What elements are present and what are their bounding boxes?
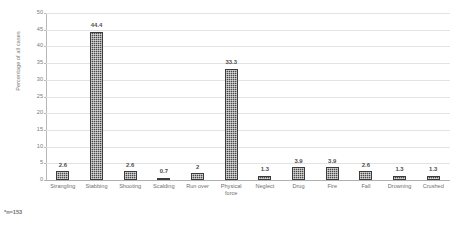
x-axis-label: Crushed: [416, 183, 450, 196]
bar: [292, 167, 305, 180]
bar-value-label: 1.3: [395, 167, 403, 173]
bar-slot: 1.3: [416, 13, 450, 180]
bar: [326, 167, 339, 180]
bar-value-label: 2.6: [126, 163, 134, 169]
bar-slot: 2.6: [349, 13, 383, 180]
bar-value-label: 3.9: [328, 159, 336, 165]
bar-value-label: 33.3: [225, 60, 236, 66]
plot-area: 05101520253035404550 2.644.42.60.7233.31…: [46, 13, 450, 180]
y-tick-label: 10: [37, 144, 43, 150]
x-axis-label: Physical force: [214, 183, 248, 196]
y-tick-label: 15: [37, 127, 43, 133]
bar-slot: 2.6: [113, 13, 147, 180]
y-tick-mark: [44, 180, 46, 181]
y-tick-label: 5: [40, 161, 43, 167]
x-axis-labels: StranglingStabbingShootingScaldingRun ov…: [46, 183, 450, 196]
bar-value-label: 2: [196, 165, 199, 171]
x-axis-label: Strangling: [46, 183, 80, 196]
y-tick-label: 30: [37, 77, 43, 83]
gridline: [46, 180, 450, 181]
bar: [56, 171, 69, 180]
bar-slot: 3.9: [282, 13, 316, 180]
bar-slot: 2: [181, 13, 215, 180]
bars-group: 2.644.42.60.7233.31.33.93.92.61.31.3: [46, 13, 450, 180]
bar: [258, 176, 271, 180]
bar-slot: 44.4: [80, 13, 114, 180]
bar: [124, 171, 137, 180]
bar-slot: 33.3: [214, 13, 248, 180]
bar: [393, 176, 406, 180]
x-axis-label: Stabbing: [80, 183, 114, 196]
bar: [90, 32, 103, 180]
y-tick-label: 25: [37, 94, 43, 100]
bar-slot: 3.9: [315, 13, 349, 180]
y-tick-label: 20: [37, 110, 43, 116]
bar-slot: 2.6: [46, 13, 80, 180]
x-axis-label: Shooting: [113, 183, 147, 196]
y-tick-label: 35: [37, 60, 43, 66]
x-axis-label: Drowning: [383, 183, 417, 196]
footnote: *n=153: [4, 209, 22, 215]
bar-value-label: 2.6: [59, 163, 67, 169]
x-axis-label: Run over: [181, 183, 215, 196]
bar-value-label: 1.3: [261, 167, 269, 173]
bar-slot: 1.3: [248, 13, 282, 180]
bar-slot: 0.7: [147, 13, 181, 180]
bar-value-label: 2.6: [362, 163, 370, 169]
bar: [157, 178, 170, 180]
x-axis-label: Scalding: [147, 183, 181, 196]
bar: [225, 69, 238, 180]
y-tick-label: 40: [37, 44, 43, 50]
bar-value-label: 3.9: [294, 159, 302, 165]
bar-value-label: 1.3: [429, 167, 437, 173]
bar-value-label: 44.4: [91, 23, 102, 29]
bar: [191, 173, 204, 180]
y-tick-label: 0: [40, 177, 43, 183]
x-axis-label: Neglect: [248, 183, 282, 196]
y-tick-label: 50: [37, 10, 43, 16]
x-axis-label: Drug: [282, 183, 316, 196]
y-tick-label: 45: [37, 27, 43, 33]
bar-value-label: 0.7: [160, 169, 168, 175]
y-axis-title: Percentage of all cases: [15, 1, 21, 121]
bar-chart-figure: Percentage of all cases 0510152025303540…: [0, 0, 456, 227]
x-axis-label: Fire: [315, 183, 349, 196]
x-axis-label: Fall: [349, 183, 383, 196]
bar: [427, 176, 440, 180]
bar: [359, 171, 372, 180]
bar-slot: 1.3: [383, 13, 417, 180]
